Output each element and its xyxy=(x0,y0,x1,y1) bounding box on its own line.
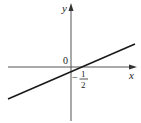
x-axis-label: x xyxy=(128,69,134,81)
y-axis-label: y xyxy=(61,2,67,14)
fraction-numerator: 1 xyxy=(81,69,86,79)
fraction-denominator: 2 xyxy=(81,80,86,90)
origin-label: 0 xyxy=(63,55,68,66)
y-axis-arrow-icon xyxy=(69,3,74,11)
minus-sign: − xyxy=(72,72,78,83)
coordinate-plane: y x 0 − 1 2 xyxy=(0,0,141,123)
